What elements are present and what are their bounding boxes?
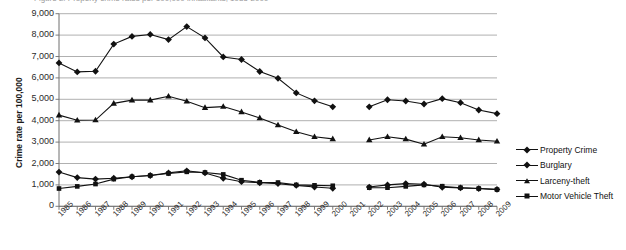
y-tick-label: 3,000 [8, 137, 54, 146]
legend-marker [516, 161, 538, 170]
chart-legend: Property CrimeBurglaryLarceny-theftMotor… [516, 142, 626, 204]
legend-marker [516, 192, 538, 201]
data-point-square [440, 184, 445, 189]
legend-item: Larceny-theft [516, 173, 626, 189]
legend-item-label: Property Crime [540, 145, 597, 155]
data-point-diamond [238, 56, 245, 63]
data-point-diamond [329, 103, 336, 110]
y-tick-label: 7,000 [8, 52, 54, 61]
data-point-diamond [74, 69, 81, 76]
data-point-diamond [421, 101, 428, 108]
data-point-square [111, 177, 116, 182]
data-point-diamond [311, 97, 318, 104]
data-point-square [57, 186, 62, 191]
y-tick-label: 0 [8, 201, 54, 210]
data-point-square [184, 170, 189, 175]
legend-diamond-icon [523, 146, 530, 153]
legend-marker [516, 176, 538, 185]
y-tick-marks [56, 14, 60, 207]
data-point-diamond [402, 98, 409, 105]
data-point-diamond [256, 68, 263, 75]
data-point-square [367, 185, 372, 190]
y-tick-label: 2,000 [8, 159, 54, 168]
data-point-square [403, 184, 408, 189]
data-point-diamond [110, 41, 117, 48]
data-point-square [294, 183, 299, 188]
legend-triangle-icon [524, 178, 530, 183]
data-point-square [495, 187, 500, 192]
legend-marker [516, 145, 538, 154]
y-tick-label: 1,000 [8, 180, 54, 189]
legend-item-label: Burglary [540, 160, 572, 170]
data-point-square [221, 172, 226, 177]
data-point-square [166, 171, 171, 176]
y-tick-label: 6,000 [8, 73, 54, 82]
legend-item-label: Larceny-theft [540, 176, 590, 186]
data-point-diamond [183, 23, 190, 30]
data-point-diamond [74, 174, 81, 181]
data-point-triangle [165, 93, 171, 99]
data-point-square [385, 185, 390, 190]
data-point-triangle [384, 133, 390, 139]
data-point-diamond [165, 36, 172, 43]
data-point-diamond [366, 103, 373, 110]
y-tick-label: 9,000 [8, 9, 54, 18]
data-point-square [203, 170, 208, 175]
data-point-square [257, 180, 262, 185]
data-point-diamond [92, 176, 99, 183]
series-line [59, 171, 333, 189]
y-axis-tick-labels: 9,0008,0007,0006,0005,0004,0003,0002,000… [4, 0, 54, 250]
legend-item: Burglary [516, 158, 626, 174]
data-point-triangle [56, 112, 62, 118]
data-point-square [330, 183, 335, 188]
data-point-triangle [439, 133, 445, 139]
legend-item-label: Motor Vehicle Theft [540, 191, 613, 201]
data-point-diamond [475, 107, 482, 114]
series-line [59, 96, 333, 139]
series-line [59, 172, 333, 189]
y-tick-label: 8,000 [8, 30, 54, 39]
data-point-diamond [92, 68, 99, 75]
data-point-square [130, 174, 135, 179]
data-point-triangle [220, 103, 226, 109]
legend-square-icon [525, 194, 530, 199]
data-point-square [75, 184, 80, 189]
data-point-square [93, 182, 98, 187]
data-point-square [239, 178, 244, 183]
figure-title-clipped: Figure 2. Property crime rates per 100,0… [34, 0, 334, 4]
data-point-diamond [147, 31, 154, 38]
series-line [59, 27, 333, 107]
legend-item: Property Crime [516, 142, 626, 158]
data-point-diamond [384, 96, 391, 103]
data-point-square [422, 183, 427, 188]
data-point-diamond [439, 95, 446, 102]
data-point-square [476, 186, 481, 191]
legend-item: Motor Vehicle Theft [516, 189, 626, 205]
y-tick-label: 4,000 [8, 116, 54, 125]
data-series-group [56, 23, 501, 193]
data-point-diamond [129, 33, 136, 40]
y-tick-label: 5,000 [8, 94, 54, 103]
data-point-diamond [457, 99, 464, 106]
data-point-diamond [56, 169, 63, 176]
data-point-diamond [56, 60, 63, 67]
legend-diamond-icon [523, 162, 530, 169]
data-point-diamond [494, 110, 501, 117]
data-point-square [276, 180, 281, 185]
data-point-square [312, 183, 317, 188]
data-point-square [148, 173, 153, 178]
data-point-square [458, 185, 463, 190]
